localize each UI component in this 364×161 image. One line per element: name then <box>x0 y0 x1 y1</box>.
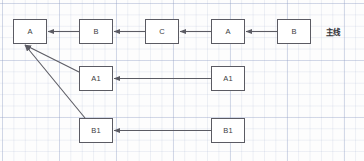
node-label: C <box>159 27 165 36</box>
node-label: A <box>27 27 32 36</box>
diagram-canvas: ABCABA1A1B1B1 主线 <box>0 0 364 161</box>
edge-a1l-to-a <box>25 45 79 72</box>
edge-b1l-to-a <box>25 45 85 118</box>
node-label: A1 <box>223 74 233 83</box>
node-label: B <box>291 27 296 36</box>
node-label: A <box>225 27 230 36</box>
node-label: B <box>93 27 98 36</box>
node-a2-main[interactable]: A <box>211 19 245 44</box>
node-a1-right[interactable]: A1 <box>211 66 245 91</box>
node-label: A1 <box>91 74 101 83</box>
node-b2-main[interactable]: B <box>277 19 311 44</box>
main-branch-label: 主线 <box>326 26 341 37</box>
node-b-main[interactable]: B <box>79 19 113 44</box>
node-c-main[interactable]: C <box>145 19 179 44</box>
node-b1-right[interactable]: B1 <box>211 118 245 143</box>
node-b1-left[interactable]: B1 <box>79 118 113 143</box>
node-a1-left[interactable]: A1 <box>79 66 113 91</box>
node-a-main[interactable]: A <box>13 19 47 44</box>
node-label: B1 <box>223 126 233 135</box>
node-label: B1 <box>91 126 101 135</box>
